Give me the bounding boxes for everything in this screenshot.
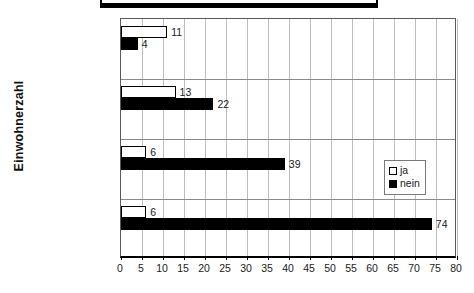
x-axis-tick: [331, 256, 332, 260]
x-axis-tick-label: 80: [445, 262, 467, 274]
x-axis-tick: [373, 256, 374, 260]
x-axis-tick-label: 45: [298, 262, 320, 274]
x-axis-tick-label: 55: [340, 262, 362, 274]
x-axis-tick-label: 0: [109, 262, 131, 274]
category-group: 114: [121, 19, 455, 79]
category-separator: [121, 79, 455, 80]
legend-item-nein[interactable]: nein: [389, 177, 420, 190]
y-axis-title: Einwohnerzahl: [12, 56, 26, 196]
open-square-icon: [389, 167, 397, 175]
x-axis-tick: [268, 256, 269, 260]
x-axis-tick: [163, 256, 164, 260]
x-axis-tick-label: 25: [214, 262, 236, 274]
x-axis-tick: [436, 256, 437, 260]
legend-label-nein: nein: [400, 177, 420, 190]
bar-value-label: 13: [180, 86, 192, 98]
category-separator: [121, 199, 455, 200]
chart-title-box: [100, 0, 378, 8]
bar-chart: Einwohnerzahl 1141322639674 250.000 und …: [0, 0, 474, 293]
category-group: 674: [121, 199, 455, 259]
x-axis-tick: [310, 256, 311, 260]
x-axis-tick-label: 5: [130, 262, 152, 274]
bar-ja-1: [121, 86, 176, 98]
bar-value-label: 22: [217, 98, 229, 110]
bar-value-label: 4: [142, 38, 148, 50]
x-axis-tick: [394, 256, 395, 260]
legend-label-ja: ja: [400, 164, 408, 177]
bar-nein-0: [121, 38, 138, 50]
x-axis-tick-label: 50: [319, 262, 341, 274]
x-axis-tick-label: 40: [277, 262, 299, 274]
x-axis-tick-label: 15: [172, 262, 194, 274]
bar-nein-1: [121, 98, 213, 110]
x-axis-tick-label: 70: [403, 262, 425, 274]
category-group: 1322: [121, 79, 455, 139]
x-axis-tick-label: 60: [361, 262, 383, 274]
bar-value-label: 74: [436, 218, 448, 230]
x-axis-tick: [226, 256, 227, 260]
bar-nein-3: [121, 218, 432, 230]
x-axis-tick-label: 75: [424, 262, 446, 274]
bar-value-label: 6: [150, 206, 156, 218]
legend-item-ja[interactable]: ja: [389, 164, 420, 177]
bar-value-label: 39: [289, 158, 301, 170]
bar-ja-0: [121, 26, 167, 38]
x-axis-tick: [247, 256, 248, 260]
bar-nein-2: [121, 158, 285, 170]
bar-ja-3: [121, 206, 146, 218]
bar-value-label: 6: [150, 146, 156, 158]
filled-square-icon: [389, 180, 397, 188]
x-axis-tick-label: 35: [256, 262, 278, 274]
x-axis-tick-label: 10: [151, 262, 173, 274]
gridline: [457, 19, 458, 256]
chart-legend: ja nein: [384, 160, 426, 195]
x-axis-tick: [352, 256, 353, 260]
plot-area: 1141322639674: [120, 18, 456, 258]
x-axis-tick: [184, 256, 185, 260]
x-axis-tick-label: 30: [235, 262, 257, 274]
x-axis-tick: [142, 256, 143, 260]
x-axis-tick: [415, 256, 416, 260]
x-axis-tick-label: 65: [382, 262, 404, 274]
x-axis-tick-label: 20: [193, 262, 215, 274]
x-axis-tick: [289, 256, 290, 260]
bar-value-label: 11: [171, 26, 182, 38]
x-axis-tick: [205, 256, 206, 260]
bar-ja-2: [121, 146, 146, 158]
x-axis-tick: [457, 256, 458, 260]
category-separator: [121, 139, 455, 140]
x-axis-tick: [121, 256, 122, 260]
